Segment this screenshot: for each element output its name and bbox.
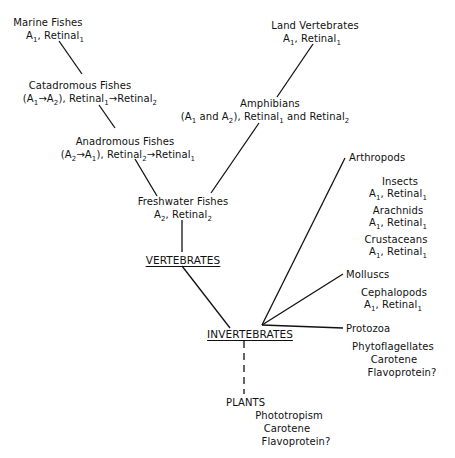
node-anadromous-fishes-name: Anadromous Fishes — [76, 136, 175, 148]
retinal-text: ), Retinal — [233, 111, 279, 122]
subscript: 1 — [336, 39, 341, 47]
node-marine-fishes-name: Marine Fishes — [13, 17, 82, 29]
edge-marine-to-catadromous — [59, 41, 82, 74]
retinal-text: ), Retinal — [96, 149, 142, 160]
node-marine-fishes-pigment: A1, Retinal1 — [26, 30, 84, 42]
retinal-text: , Retinal — [381, 217, 423, 228]
subscript: 1 — [422, 252, 427, 260]
chromophore-a: A — [85, 149, 92, 160]
chromophore-a: A — [369, 246, 376, 257]
chromophore-a: A — [27, 93, 34, 104]
edge-anadromous-to-freshwater — [135, 159, 157, 196]
retinal-text: , Retinal — [38, 30, 80, 41]
arrow-icon: → — [38, 93, 46, 104]
node-anadromous-fishes-pigment: (A2→A1), Retinal2→Retinal1 — [61, 149, 195, 161]
node-cephalopods-name: Cephalopods — [361, 287, 427, 299]
edge-amphibians-to-freshwater — [211, 123, 259, 193]
node-arthropods: Arthropods — [349, 152, 405, 164]
edge-land-to-amphibians — [277, 44, 313, 97]
node-plants: PLANTS — [226, 397, 265, 409]
subscript: 2 — [207, 215, 212, 223]
chromophore-a: A — [283, 33, 290, 44]
subscript: 2 — [153, 99, 158, 107]
node-amphibians-pigment: (A1 and A2), Retinal1 and Retinal2 — [181, 111, 350, 123]
node-plants-flavoprotein: Flavoprotein? — [262, 436, 331, 448]
edge-invertebrates-to-arthropods — [262, 158, 345, 325]
node-phytoflagellates-carotene: Carotene — [371, 354, 417, 366]
and-text: and — [196, 111, 222, 122]
node-invertebrates: INVERTEBRATES — [207, 328, 293, 340]
subscript: 1 — [422, 194, 427, 202]
node-insects-name: Insects — [382, 176, 418, 188]
chromophore-a: A — [47, 93, 54, 104]
node-catadromous-fishes-pigment: (A1→A2), Retinal1→Retinal2 — [23, 93, 157, 105]
node-freshwater-fishes-pigment: A2, Retinal2 — [154, 209, 212, 221]
subscript: 1 — [191, 155, 196, 163]
edge-vertebrates-to-invertebrates — [182, 266, 230, 328]
node-crustaceans-pigment: A1, Retinal1 — [369, 246, 427, 258]
node-vertebrates: VERTEBRATES — [146, 254, 221, 266]
retinal-text: , Retinal — [381, 246, 423, 257]
chromophore-a: A — [364, 299, 371, 310]
node-arachnids-pigment: A1, Retinal1 — [369, 217, 427, 229]
retinal-text: Retinal — [117, 93, 152, 104]
node-land-vertebrates-pigment: A1, Retinal1 — [283, 33, 341, 45]
retinal-text: , Retinal — [376, 299, 418, 310]
and-text: and — [284, 111, 310, 122]
node-phytoflagellates-name: Phytoflagellates — [352, 341, 434, 353]
retinal-text: , Retinal — [166, 209, 208, 220]
subscript: 1 — [417, 305, 422, 313]
subscript: 1 — [422, 223, 427, 231]
node-molluscs: Molluscs — [346, 269, 389, 281]
node-arachnids-name: Arachnids — [373, 205, 424, 217]
chromophore-a: A — [154, 209, 161, 220]
node-catadromous-fishes-name: Catadromous Fishes — [29, 80, 132, 92]
node-phytoflagellates-flavoprotein: Flavoprotein? — [368, 367, 437, 379]
node-plants-carotene: Carotene — [264, 423, 310, 435]
node-land-vertebrates-name: Land Vertebrates — [271, 20, 358, 32]
chromophore-a: A — [185, 111, 192, 122]
arrow-icon: → — [76, 149, 84, 160]
retinal-text: , Retinal — [381, 188, 423, 199]
retinal-text: ), Retinal — [58, 93, 104, 104]
retinal-text: Retinal — [309, 111, 344, 122]
chromophore-a: A — [369, 188, 376, 199]
retinal-text: Retinal — [155, 149, 190, 160]
node-protozoa: Protozoa — [346, 323, 390, 335]
chromophore-a: A — [65, 149, 72, 160]
node-plants-phototropism: Phototropism — [255, 410, 323, 422]
edge-catadromous-to-anadromous — [99, 105, 115, 128]
node-amphibians-name: Amphibians — [240, 98, 300, 110]
node-crustaceans-name: Crustaceans — [364, 234, 427, 246]
chromophore-a: A — [369, 217, 376, 228]
node-cephalopods-pigment: A1, Retinal1 — [364, 299, 422, 311]
retinal-text: , Retinal — [295, 33, 337, 44]
chromophore-a: A — [26, 30, 33, 41]
subscript: 2 — [345, 117, 350, 125]
phylogeny-diagram — [0, 0, 455, 458]
node-freshwater-fishes-name: Freshwater Fishes — [138, 196, 229, 208]
subscript: 1 — [79, 36, 84, 44]
node-insects-pigment: A1, Retinal1 — [369, 188, 427, 200]
